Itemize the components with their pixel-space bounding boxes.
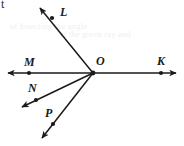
point-label-p: P <box>45 107 52 119</box>
point-dot-n <box>34 98 38 102</box>
point-dot-k <box>159 71 163 75</box>
point-label-m: M <box>24 56 35 68</box>
point-dot-p <box>51 122 55 126</box>
geometry-figure: t of bisecting the angle at the given ra… <box>0 0 184 146</box>
geometry-canvas <box>0 0 184 146</box>
point-label-l: L <box>60 6 67 18</box>
point-dot-o <box>91 71 96 76</box>
point-label-n: N <box>28 82 37 94</box>
point-label-o: O <box>96 55 105 67</box>
point-dot-l <box>50 16 54 20</box>
point-dot-m <box>27 71 31 75</box>
point-label-k: K <box>157 55 165 67</box>
